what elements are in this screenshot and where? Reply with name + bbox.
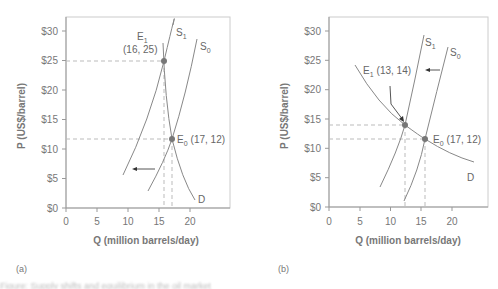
curve-label-s1-a: S1 <box>176 27 187 40</box>
pointer-arrow-line-b <box>390 86 403 120</box>
curve-label-d-b: D <box>467 172 474 183</box>
chart-a: $0 $5 $10 $15 $20 $25 $30 0 5 10 15 20 Q… <box>16 17 230 274</box>
y-tick-label: $25 <box>41 55 58 66</box>
y-tick-label: $30 <box>304 26 321 37</box>
x-axis-title-a: Q (million barrels/day) <box>93 235 199 246</box>
y-axis-title-b: P (US$/barrel) <box>279 83 290 149</box>
x-tick-label: 20 <box>184 216 196 227</box>
panel-label-b: (b) <box>278 264 289 274</box>
guide-lines-a <box>66 61 172 208</box>
chart-b: $0 $5 $10 $15 $20 $25 $30 0 5 10 15 20 Q… <box>278 17 488 274</box>
curve-label-s1-b: S1 <box>425 37 436 50</box>
guide-lines-b <box>329 125 425 207</box>
figure-caption: Figure: Supply shifts and equilibrium in… <box>0 281 498 289</box>
equilibrium-point-e1-b <box>402 122 408 128</box>
x-tick-label: 20 <box>446 216 458 227</box>
supply-curve-s1-b <box>380 35 424 187</box>
x-tick-label: 0 <box>326 216 332 227</box>
figure-canvas: $0 $5 $10 $15 $20 $25 $30 0 5 10 15 20 Q… <box>0 0 498 289</box>
arrow-left-icon <box>425 68 430 72</box>
arrow-left-icon <box>132 167 137 171</box>
y-tick-label: $0 <box>310 202 322 213</box>
x-tick-label: 10 <box>122 216 134 227</box>
panel-label-a: (a) <box>16 264 27 274</box>
y-tick-label: $0 <box>47 203 59 214</box>
curve-label-d-a: D <box>198 194 205 205</box>
y-tick-label: $15 <box>304 114 321 125</box>
x-tick-label: 5 <box>357 216 363 227</box>
y-tick-label: $20 <box>304 84 321 95</box>
y-tick-label: $20 <box>41 85 58 96</box>
y-axis-title-a: P (US$/barrel) <box>16 83 27 149</box>
y-tick-label: $10 <box>304 143 321 154</box>
equilibrium-point-e0-b <box>422 136 428 142</box>
y-tick-label: $25 <box>304 55 321 66</box>
y-tick-label: $30 <box>41 26 58 37</box>
x-axis-title-b: Q (million barrels/day) <box>355 235 461 246</box>
equilibrium-point-e0-a <box>169 136 175 142</box>
curve-label-s0-a: S0 <box>200 41 211 54</box>
x-tick-label: 15 <box>153 216 165 227</box>
y-tick-label: $10 <box>41 144 58 155</box>
y-tick-label: $5 <box>310 172 322 183</box>
x-tick-label: 5 <box>94 216 100 227</box>
curve-label-s0-b: S0 <box>450 47 461 60</box>
x-tick-label: 15 <box>415 216 427 227</box>
eq-label-e0-a: E0(17, 12) <box>177 134 225 147</box>
equilibrium-point-e1-a <box>161 58 167 64</box>
y-tick-label: $5 <box>47 173 59 184</box>
x-tick-label: 10 <box>385 216 397 227</box>
y-tick-label: $15 <box>41 114 58 125</box>
eq-label-e1-a: E1 <box>137 31 148 44</box>
plot-frame-b <box>329 17 488 207</box>
eq-label-e1-b: E1(13, 14) <box>363 65 411 78</box>
eq-coord-e1-a: (16, 25) <box>123 44 157 55</box>
demand-curve-d-a <box>163 43 195 200</box>
eq-label-e0-b: E0(17, 12) <box>433 134 481 147</box>
x-tick-label: 0 <box>63 216 69 227</box>
